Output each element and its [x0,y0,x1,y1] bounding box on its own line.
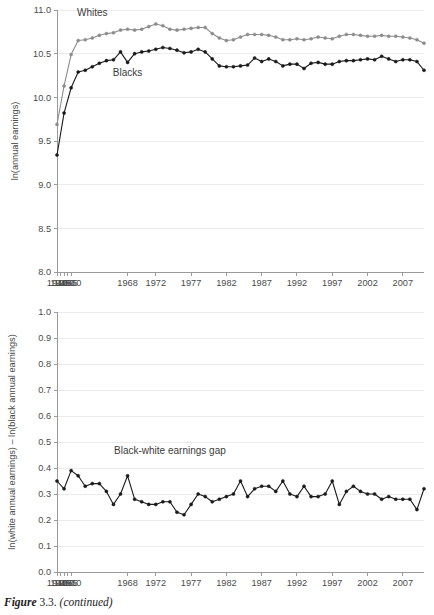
data-point-marker [401,58,404,61]
data-point-marker [197,492,200,495]
data-point-marker [387,35,390,38]
data-point-marker [98,482,101,485]
data-point-marker [161,24,164,27]
data-point-marker [77,39,80,42]
data-point-marker [140,500,143,503]
data-point-marker [394,35,397,38]
x-tick-label: 1960 [61,578,81,588]
data-point-marker [225,65,228,68]
caption-label: Figure [4,596,37,608]
data-point-marker [239,36,242,39]
data-point-marker [218,64,221,67]
data-point-marker [267,34,270,37]
data-point-marker [175,49,178,52]
data-point-marker [295,495,298,498]
data-point-marker [119,50,122,53]
series-annotation-label: Blacks [113,67,142,78]
data-point-marker [55,479,58,482]
data-point-marker [84,485,87,488]
data-point-marker [260,33,263,36]
data-point-marker [70,469,73,472]
x-tick-label: 1987 [251,278,271,288]
data-point-marker [331,37,334,40]
data-point-marker [154,48,157,51]
data-point-marker [352,33,355,36]
data-point-marker [91,65,94,68]
data-point-marker [345,490,348,493]
data-point-marker [190,503,193,506]
data-point-marker [373,492,376,495]
y-tick-label: 0.2 [38,515,51,525]
data-point-marker [232,65,235,68]
data-point-marker [281,64,284,67]
data-point-marker [63,487,66,490]
data-point-marker [197,26,200,29]
earnings-levels-plot: 8.08.59.09.510.010.511.01940194519501955… [0,0,434,298]
y-tick-label: 8.0 [38,267,51,277]
data-point-marker [105,32,108,35]
data-point-marker [204,50,207,53]
data-point-marker [359,34,362,37]
earnings-gap-plot: 0.00.10.20.30.40.50.60.70.80.91.01940194… [0,300,434,592]
data-point-marker [338,503,341,506]
series-line-black-white-earnings-gap [57,471,424,515]
data-point-marker [295,37,298,40]
data-point-marker [302,67,305,70]
x-tick-label: 2007 [393,578,413,588]
data-point-marker [373,35,376,38]
data-point-marker [105,59,108,62]
data-point-marker [317,495,320,498]
data-point-marker [190,50,193,53]
data-point-marker [267,57,270,60]
data-point-marker [197,48,200,51]
data-point-marker [415,60,418,63]
figure-3-3: 8.08.59.09.510.010.511.01940194519501955… [0,0,434,615]
data-point-marker [147,503,150,506]
data-point-marker [324,492,327,495]
data-point-marker [253,487,256,490]
y-tick-label: 0.6 [38,411,51,421]
data-point-marker [225,495,228,498]
y-tick-label: 0.9 [38,333,51,343]
data-point-marker [422,69,425,72]
data-point-marker [133,52,136,55]
data-point-marker [274,490,277,493]
data-point-marker [147,25,150,28]
data-point-marker [77,70,80,73]
data-point-marker [232,492,235,495]
x-tick-label: 1982 [216,578,236,588]
data-point-marker [204,26,207,29]
data-point-marker [84,69,87,72]
data-point-marker [246,63,249,66]
data-point-marker [394,60,397,63]
y-tick-label: 9.0 [38,180,51,190]
data-point-marker [126,61,129,64]
x-tick-label: 1972 [146,278,166,288]
data-point-marker [225,39,228,42]
data-point-marker [281,38,284,41]
x-tick-label: 1982 [216,278,236,288]
data-point-marker [331,479,334,482]
data-point-marker [239,479,242,482]
data-point-marker [302,485,305,488]
data-point-marker [182,51,185,54]
y-axis-title: ln(annual earnings) [10,102,20,181]
data-point-marker [112,31,115,34]
caption-number: 3.3. [39,596,56,608]
data-point-marker [310,37,313,40]
y-tick-label: 0.3 [38,489,51,499]
data-point-marker [408,58,411,61]
data-point-marker [168,500,171,503]
data-point-marker [147,50,150,53]
data-point-marker [112,503,115,506]
data-point-marker [274,60,277,63]
data-point-marker [380,34,383,37]
data-point-marker [422,42,425,45]
data-point-marker [126,28,129,31]
data-point-marker [112,58,115,61]
data-point-marker [345,59,348,62]
data-point-marker [140,50,143,53]
data-point-marker [246,33,249,36]
data-point-marker [168,47,171,50]
data-point-marker [274,36,277,39]
